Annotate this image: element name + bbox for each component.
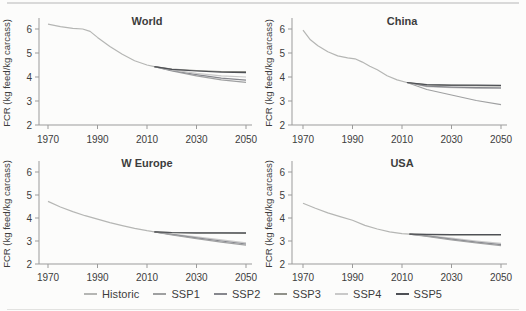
y-axis-label: FCR (kg feed/kg carcass) — [1, 160, 12, 268]
ssp2-line-swatch — [214, 293, 227, 295]
y-tick-label: 6 — [26, 167, 32, 178]
legend-label: SSP1 — [171, 288, 200, 300]
legend-label: SSP5 — [414, 288, 443, 300]
bottom-rule — [7, 309, 519, 310]
x-tick-label: 2010 — [391, 134, 414, 145]
legend-label: SSP4 — [353, 288, 382, 300]
y-tick-label: 4 — [279, 213, 285, 224]
series-historic-line — [48, 24, 154, 66]
chart-world: 2345619701990201020302050FCR (kg feed/kg… — [0, 6, 263, 150]
x-tick-label: 2030 — [440, 272, 463, 283]
y-tick-label: 6 — [279, 167, 285, 178]
legend-item-ssp1: SSP1 — [153, 288, 200, 300]
y-tick-label: 2 — [26, 120, 32, 131]
y-axis-label: FCR (kg feed/kg carcass) — [263, 19, 274, 127]
y-axis-label: FCR (kg feed/kg carcass) — [263, 160, 274, 268]
axes — [288, 161, 507, 268]
x-tick-label: 2030 — [440, 134, 463, 145]
chart-title: W Europe — [121, 157, 172, 169]
x-tick-label: 1990 — [86, 134, 109, 145]
y-tick-label: 2 — [279, 120, 285, 131]
x-tick-label: 2050 — [235, 134, 258, 145]
y-tick-label: 6 — [279, 24, 285, 35]
y-tick-label: 3 — [26, 96, 32, 107]
chart-china: 2345619701990201020302050FCR (kg feed/kg… — [263, 6, 526, 150]
y-tick-label: 5 — [26, 190, 32, 201]
y-axis-label: FCR (kg feed/kg carcass) — [1, 19, 12, 127]
x-tick-label: 2030 — [185, 134, 208, 145]
ssp4-line-swatch — [335, 293, 348, 295]
legend-item-historic: Historic — [84, 288, 139, 300]
x-tick-label: 2050 — [490, 272, 513, 283]
legend-label: Historic — [102, 288, 139, 300]
legend-label: SSP3 — [292, 288, 321, 300]
historic-line-swatch — [84, 293, 97, 295]
y-tick-label: 4 — [26, 213, 32, 224]
x-tick-label: 2010 — [136, 134, 159, 145]
chart-title: China — [387, 15, 418, 27]
chart-title: USA — [390, 157, 413, 169]
legend-label: SSP2 — [232, 288, 261, 300]
axes — [35, 18, 252, 129]
series-ssp1-line — [409, 234, 501, 246]
axes — [288, 18, 507, 129]
x-tick-label: 1970 — [292, 272, 315, 283]
x-tick-label: 2050 — [235, 272, 258, 283]
y-tick-label: 2 — [279, 259, 285, 270]
y-tick-label: 3 — [279, 236, 285, 247]
y-tick-label: 5 — [26, 48, 32, 59]
y-tick-label: 3 — [26, 236, 32, 247]
series-historic-line — [303, 203, 409, 234]
series-ssp5-line — [154, 232, 246, 233]
x-tick-label: 1990 — [86, 272, 109, 283]
series-historic-line — [303, 30, 407, 82]
y-tick-label: 6 — [26, 24, 32, 35]
fcr-projection-figure: { "page": { "background": "#fcfcfb" }, "… — [0, 0, 526, 311]
x-tick-label: 1990 — [341, 134, 364, 145]
y-tick-label: 5 — [279, 48, 285, 59]
ssp5-line-swatch — [396, 293, 409, 295]
chart-w-europe: 2345619701990201020302050FCR (kg feed/kg… — [0, 150, 263, 284]
x-tick-label: 2010 — [136, 272, 159, 283]
x-tick-label: 1970 — [37, 272, 60, 283]
y-tick-label: 3 — [279, 96, 285, 107]
series-historic-line — [48, 201, 154, 231]
y-tick-label: 5 — [279, 190, 285, 201]
y-tick-label: 4 — [279, 72, 285, 83]
legend-item-ssp2: SSP2 — [214, 288, 261, 300]
x-tick-label: 1970 — [37, 134, 60, 145]
y-tick-label: 4 — [26, 72, 32, 83]
legend-item-ssp4: SSP4 — [335, 288, 382, 300]
y-tick-label: 2 — [26, 259, 32, 270]
x-tick-label: 1970 — [292, 134, 315, 145]
axes — [35, 161, 252, 268]
legend-item-ssp3: SSP3 — [274, 288, 321, 300]
chart-title: World — [132, 15, 163, 27]
ssp1-line-swatch — [153, 293, 166, 295]
x-tick-label: 2050 — [490, 134, 513, 145]
x-tick-label: 2010 — [391, 272, 414, 283]
legend: Historic SSP1 SSP2 SSP3 SSP4 SSP5 — [0, 285, 526, 303]
top-rule — [7, 2, 519, 4]
x-tick-label: 2030 — [185, 272, 208, 283]
ssp3-line-swatch — [274, 293, 287, 295]
series-ssp5-line — [409, 234, 501, 235]
legend-item-ssp5: SSP5 — [396, 288, 443, 300]
x-tick-label: 1990 — [341, 272, 364, 283]
chart-usa: 2345619701990201020302050FCR (kg feed/kg… — [263, 150, 526, 284]
